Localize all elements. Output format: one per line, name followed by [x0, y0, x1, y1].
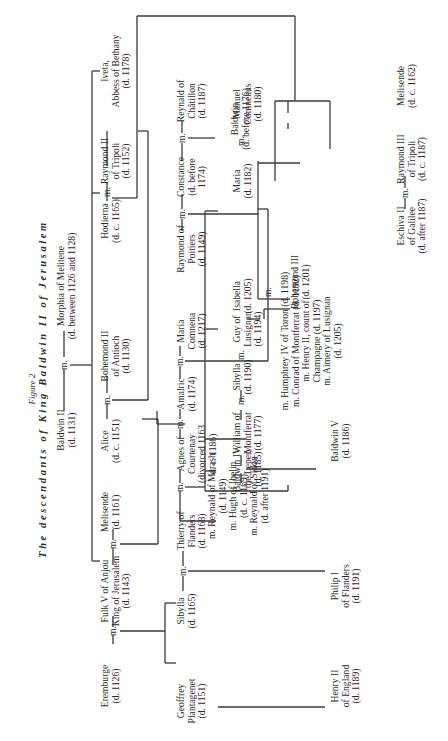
person-iveta: Iveta, Abbess of Bethany (d. 1178): [100, 34, 132, 107]
person-raymond-iii: Raymond III of Tripoli (d. c. 1187): [396, 134, 428, 183]
person-hodierna: Hodierna (d. c. 1165): [100, 199, 121, 243]
person-isabella: Isabella (d. 1205): [232, 278, 253, 313]
marriage-marker: m.: [177, 209, 187, 219]
marriage-marker: m.: [177, 133, 187, 143]
person-bohemond-ii: Bohemond II of Antioch (d. 1130): [100, 331, 132, 382]
marriage-marker: m.: [175, 356, 185, 366]
marriage-marker: m.: [400, 188, 410, 198]
person-raymond-poitiers: Raymond of Poitiers (d. 1149): [176, 225, 208, 273]
person-manuel: Manuel Comnenus (d. 1180): [232, 83, 264, 124]
person-raymond-ii: Raymond II of Tripoli (d. 1152): [100, 138, 132, 184]
person-morphia: Morphia of Melitene (d. between 1126 and…: [56, 233, 77, 340]
marriage-marker: m.: [102, 395, 112, 405]
marriage-marker: m.: [236, 136, 246, 146]
marriage-marker: m.: [236, 395, 246, 405]
genealogy-diagram: Figure 2 The descendants of King Baldwin…: [0, 0, 448, 741]
person-amalric: Amalric (d. 1174): [176, 377, 197, 412]
person-eschiva: Eschiva II of Galilee (d. after 1187): [396, 199, 428, 254]
marriage-marker: m.: [102, 187, 112, 197]
marriage-marker: m.: [175, 482, 185, 492]
person-baldwin-ii: Baldwin II (d. 1131): [56, 409, 77, 450]
marriage-marker: m.: [108, 626, 118, 636]
person-thierry: Thierry of Flanders (d. 1168): [176, 511, 208, 550]
marriage-marker: m.: [108, 539, 118, 549]
person-alice: Alice (d. c. 1151): [100, 419, 121, 463]
person-reynald-chatillon: Reynald of Châtillon (d. 1187): [176, 80, 208, 122]
person-melisende-1162: Melisende (d. c. 1162): [396, 64, 417, 108]
person-henry-ii: Henry II of England (d. 1189): [330, 665, 362, 707]
person-sibylla-1190: Sibylla (d. 1190): [232, 360, 253, 395]
person-constance: Constance (d. before 1174): [176, 157, 208, 197]
marriage-marker: m.: [178, 566, 188, 576]
marriage-marker: m.: [236, 350, 246, 360]
person-melisende: Melisende (d. 1161): [100, 492, 121, 532]
person-maria-1182: Maria (d. 1182): [232, 164, 253, 199]
person-geoffrey: Geoffrey Plantagenet (d. 1151): [176, 679, 208, 724]
person-philip-i: Philip I of Flanders (d. 1191): [330, 564, 362, 607]
person-eremburge: Eremburge (d. 1126): [100, 665, 121, 707]
marriage-marker: m.: [175, 419, 185, 429]
isabella-marriages: m. Humphrey IV of Toron (d. 1198) m. Con…: [280, 272, 343, 410]
marriage-marker: m.: [263, 287, 273, 297]
person-maria-comnena: Maria Comnena (d. 1217): [176, 313, 208, 350]
person-guy-lusignan: Guy of Lusignan (d. 1194): [232, 311, 264, 347]
person-baldwin-v: Baldwin V (d. 1186): [330, 420, 351, 462]
person-sibylla-1165: Sibylla (d. 1165): [176, 594, 197, 629]
person-fulk-v: Fulk V of Anjou King of Jerusalem (d. 11…: [100, 556, 132, 626]
connector-lines: [0, 0, 448, 741]
person-william-montferrat: William of Montferrat (d. 1177): [232, 412, 264, 454]
marriage-marker: m.: [59, 360, 69, 370]
